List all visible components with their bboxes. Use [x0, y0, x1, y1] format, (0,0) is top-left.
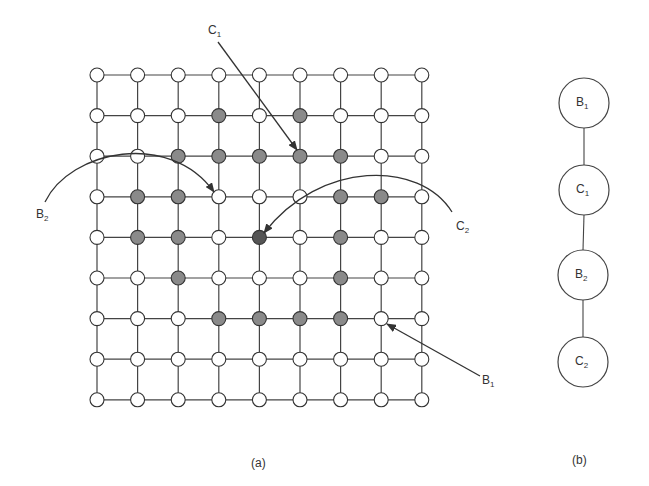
grid-node-empty	[293, 68, 307, 82]
tree-panel-b: B1C1B2C2	[558, 78, 609, 387]
grid-node-empty	[415, 271, 429, 285]
grid-node-empty	[293, 393, 307, 407]
grid-node-empty	[374, 393, 388, 407]
grid-node-empty	[90, 68, 104, 82]
figure-canvas: C1B2C2B1 B1C1B2C2 (a) (b)	[0, 0, 649, 486]
grid-node-empty	[374, 109, 388, 123]
grid-node-empty	[415, 352, 429, 366]
grid-node-empty	[90, 312, 104, 326]
grid-node-empty	[171, 68, 185, 82]
grid-node-filled	[334, 149, 348, 163]
annotation-arrows	[45, 42, 480, 376]
grid-node-empty	[90, 109, 104, 123]
grid-node-empty	[374, 149, 388, 163]
grid-node-empty	[171, 312, 185, 326]
grid-node-filled	[252, 149, 266, 163]
grid-node-empty	[415, 312, 429, 326]
grid-node-empty	[293, 230, 307, 244]
grid-node-empty	[415, 230, 429, 244]
grid-node-empty	[212, 230, 226, 244]
arrow-c1	[218, 42, 297, 150]
grid-node-empty	[252, 352, 266, 366]
grid-node-empty	[334, 109, 348, 123]
grid-node-filled	[212, 149, 226, 163]
grid-node-empty	[374, 230, 388, 244]
grid-node-empty	[293, 352, 307, 366]
grid-nodes	[90, 68, 429, 407]
grid-node-filled	[171, 230, 185, 244]
grid-node-empty	[252, 271, 266, 285]
grid-node-empty	[171, 109, 185, 123]
grid-node-empty	[131, 149, 145, 163]
grid-node-empty	[374, 68, 388, 82]
grid-node-filled	[374, 190, 388, 204]
grid-node-empty	[293, 271, 307, 285]
grid-node-empty	[131, 68, 145, 82]
grid-node-empty	[415, 109, 429, 123]
grid-node-empty	[212, 68, 226, 82]
caption-b: (b)	[572, 453, 587, 467]
grid-node-filled	[293, 312, 307, 326]
grid-node-empty	[171, 352, 185, 366]
grid-node-empty	[90, 190, 104, 204]
grid-node-empty	[415, 190, 429, 204]
grid-node-filled	[293, 149, 307, 163]
grid-node-empty	[374, 352, 388, 366]
arrow-b1	[387, 324, 480, 376]
arrow-c2	[264, 175, 452, 233]
grid-node-filled	[334, 230, 348, 244]
grid-node-filled	[131, 190, 145, 204]
grid-node-empty	[374, 312, 388, 326]
grid-node-empty	[90, 230, 104, 244]
grid-node-empty	[171, 393, 185, 407]
grid-node-empty	[131, 352, 145, 366]
grid-node-empty	[374, 271, 388, 285]
grid-node-filled	[171, 190, 185, 204]
grid-node-empty	[90, 393, 104, 407]
label-b1: B1	[482, 373, 495, 389]
caption-a: (a)	[251, 456, 266, 470]
grid-node-empty	[131, 109, 145, 123]
grid-node-empty	[90, 271, 104, 285]
grid-node-empty	[212, 393, 226, 407]
arrow-b2	[45, 154, 214, 202]
grid-node-empty	[334, 352, 348, 366]
grid-node-empty	[131, 271, 145, 285]
grid-node-filled	[212, 109, 226, 123]
label-c2: C2	[456, 219, 470, 235]
grid-node-empty	[252, 393, 266, 407]
grid-node-filled	[334, 271, 348, 285]
grid-node-filled	[252, 312, 266, 326]
grid-node-empty	[212, 352, 226, 366]
grid-node-filled	[212, 312, 226, 326]
label-c1: C1	[208, 23, 222, 39]
grid-node-filled	[293, 109, 307, 123]
tree-edge	[583, 215, 584, 250]
grid-node-empty	[252, 68, 266, 82]
grid-node-empty	[415, 68, 429, 82]
grid-node-filled	[171, 149, 185, 163]
grid-node-empty	[131, 312, 145, 326]
grid-node-filled	[171, 271, 185, 285]
grid-node-empty	[334, 68, 348, 82]
grid-node-filled	[131, 230, 145, 244]
grid-node-empty	[415, 393, 429, 407]
grid-node-filled	[334, 190, 348, 204]
grid-node-empty	[415, 149, 429, 163]
grid-node-empty	[252, 190, 266, 204]
grid-node-empty	[131, 393, 145, 407]
grid-node-empty	[90, 352, 104, 366]
grid-node-empty	[212, 271, 226, 285]
grid-node-empty	[334, 393, 348, 407]
label-b2: B2	[36, 207, 49, 223]
grid-node-empty	[252, 109, 266, 123]
grid-node-filled	[334, 312, 348, 326]
